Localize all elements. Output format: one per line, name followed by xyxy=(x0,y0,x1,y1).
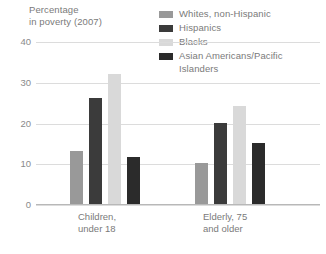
ytick-label-0: 0 xyxy=(26,200,31,210)
gridline-0 xyxy=(36,205,320,206)
bar xyxy=(127,157,140,204)
bar xyxy=(108,74,121,204)
chart-axis-title: Percentage in poverty (2007) xyxy=(29,4,102,28)
bar xyxy=(233,106,246,204)
bar-group-2 xyxy=(195,106,265,204)
ytick-label-40: 40 xyxy=(20,37,31,47)
bar-chart: Percentage in poverty (2007) Whites, non… xyxy=(0,0,326,254)
legend-item-hispanics: Hispanics xyxy=(159,22,283,35)
gridline-40 xyxy=(36,42,320,43)
bar xyxy=(70,151,83,204)
bar xyxy=(89,98,102,204)
xaxis-label-children-under-18: Children, under 18 xyxy=(78,211,116,235)
bar xyxy=(252,143,265,204)
ytick-label-20: 20 xyxy=(20,119,31,129)
legend-item-whites-non-hispanic: Whites, non-Hispanic xyxy=(159,8,283,21)
ytick-label-30: 30 xyxy=(20,78,31,88)
bar-group-1 xyxy=(70,74,140,204)
ytick-label-10: 10 xyxy=(20,160,31,170)
legend-label-hispanics: Hispanics xyxy=(179,22,221,35)
legend-swatch-whites-non-hispanic xyxy=(159,11,173,18)
bar xyxy=(214,123,227,205)
legend-label-whites-non-hispanic: Whites, non-Hispanic xyxy=(179,8,271,21)
bar xyxy=(195,163,208,204)
plot-area: 403020100 xyxy=(36,42,320,205)
axis-baseline xyxy=(36,204,320,205)
legend-swatch-hispanics xyxy=(159,25,173,32)
xaxis-label-elderly-75-and-older: Elderly, 75 and older xyxy=(203,211,247,235)
